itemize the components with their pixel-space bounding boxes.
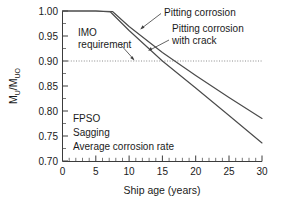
case-note-line-1: FPSO	[73, 113, 100, 124]
crack-label-line2: with crack	[171, 35, 217, 46]
y-tick-label: 1.00	[39, 6, 59, 17]
y-tick-label: 0.70	[39, 156, 59, 167]
y-axis-title-sub2: UO	[14, 67, 21, 78]
chart-figure: 1.00 0.95 0.90 0.85 0.80 0.75 0.70 MU/MU…	[0, 0, 281, 206]
case-note-line-2: Sagging	[73, 127, 110, 138]
y-axis-title-base2: M	[7, 79, 19, 88]
imo-label-line1: IMO	[78, 27, 97, 38]
chart-svg: 1.00 0.95 0.90 0.85 0.80 0.75 0.70 MU/MU…	[0, 0, 281, 206]
x-tick-label: 30	[256, 166, 268, 177]
x-tick-label: 20	[190, 166, 202, 177]
x-axis-title: Ship age (years)	[123, 184, 200, 196]
x-tick-label: 15	[157, 166, 169, 177]
x-tick-label: 5	[93, 166, 99, 177]
y-axis-title-base1: M	[7, 95, 19, 104]
x-tick-label: 25	[223, 166, 235, 177]
y-tick-label: 0.80	[39, 106, 59, 117]
y-tick-label: 0.85	[39, 81, 59, 92]
x-tick-label: 10	[124, 166, 136, 177]
y-tick-label: 0.90	[39, 56, 59, 67]
case-note-line-3: Average corrosion rate	[73, 141, 174, 152]
pitting-label-line1: Pitting corrosion	[164, 7, 236, 18]
y-tick-label: 0.95	[39, 31, 59, 42]
y-tick-label: 0.75	[39, 131, 59, 142]
crack-label-line1: Pitting corrosion	[172, 23, 244, 34]
x-tick-label: 0	[60, 166, 66, 177]
